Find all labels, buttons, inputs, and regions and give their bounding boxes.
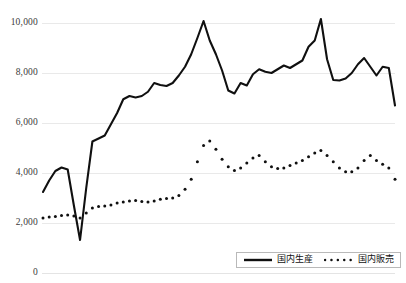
line-chart: 10,000 8,000 6,000 4,000 2,000 0 国内生産 国内…	[0, 0, 406, 283]
series-1-solid-line	[43, 19, 395, 240]
plot-area	[0, 0, 406, 283]
legend-label-production: 国内生産	[277, 255, 313, 264]
chart-legend: 国内生産 国内販売	[236, 252, 401, 268]
series-2-dotted-points	[42, 140, 397, 220]
legend-item-production: 国内生産	[243, 255, 313, 264]
legend-label-sales: 国内販売	[358, 255, 394, 264]
legend-key-dotted-line	[324, 256, 354, 264]
legend-key-solid-line	[243, 256, 273, 264]
legend-item-sales: 国内販売	[324, 255, 394, 264]
